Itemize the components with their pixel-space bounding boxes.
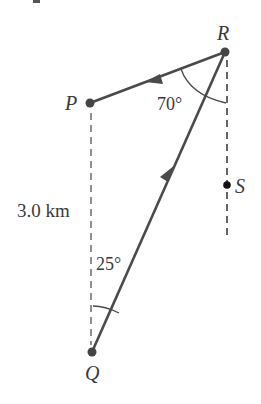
- point-p: [86, 99, 95, 108]
- label-r: R: [216, 22, 229, 44]
- angle-arc-25: [93, 306, 119, 313]
- angle-label-25: 25°: [96, 254, 121, 274]
- point-r: [221, 48, 230, 57]
- point-q: [88, 348, 97, 357]
- label-q: Q: [85, 362, 100, 384]
- cropped-glyph: [33, 0, 40, 3]
- arrowhead-q-r-icon: [160, 165, 175, 182]
- label-s: S: [235, 175, 245, 197]
- vector-diagram: R P Q S 70° 25° 3.0 km: [0, 0, 261, 404]
- point-s: [223, 181, 231, 189]
- angle-label-70: 70°: [157, 94, 182, 114]
- label-p: P: [64, 92, 77, 114]
- distance-label: 3.0 km: [17, 200, 70, 221]
